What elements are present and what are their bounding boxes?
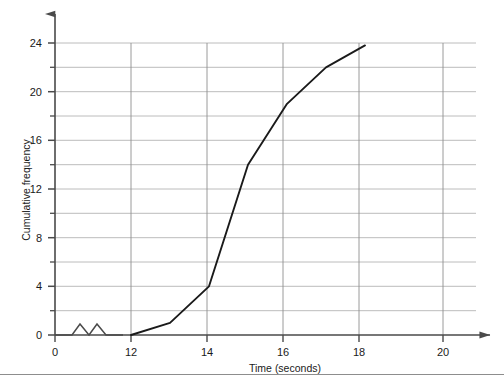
x-tick-label-18: 18: [353, 346, 365, 358]
footer-divider: [0, 374, 504, 375]
x-tick-label-12: 12: [125, 346, 137, 358]
horizontal-gridlines: [55, 43, 476, 311]
x-axis-title: Time (seconds): [249, 362, 321, 374]
x-tick-label-0: 0: [52, 346, 58, 358]
y-tick-label-24: 24: [30, 37, 42, 49]
y-tick-label-8: 8: [36, 232, 42, 244]
y-tick-label-0: 0: [36, 329, 42, 341]
cumulative-frequency-curve: [131, 45, 365, 335]
y-axis-title: Cumulative frequency: [20, 138, 32, 240]
y-tick-label-4: 4: [36, 280, 42, 292]
x-axis-ticks: [55, 335, 443, 342]
y-axis-major-ticks: [48, 43, 55, 335]
x-tick-label-20: 20: [437, 346, 449, 358]
x-tick-label-14: 14: [201, 346, 213, 358]
chart-canvas: 24 20 16 12 8 4 0 0 12 14 16 18 20 Cumul…: [0, 0, 504, 383]
x-axis-tick-labels: 0 12 14 16 18 20: [52, 346, 449, 358]
x-axis-break-zigzag-icon: [55, 324, 123, 335]
y-tick-label-20: 20: [30, 86, 42, 98]
x-tick-label-16: 16: [277, 346, 289, 358]
cumulative-frequency-chart: 24 20 16 12 8 4 0 0 12 14 16 18 20 Cumul…: [0, 0, 504, 383]
